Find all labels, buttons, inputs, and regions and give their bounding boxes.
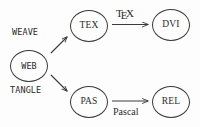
edge-label-weave: WEAVE xyxy=(12,28,38,37)
node-tex: TEX xyxy=(70,10,108,42)
node-web: WEB xyxy=(10,50,48,82)
node-pas-label: PAS xyxy=(80,97,97,107)
node-dvi: DVI xyxy=(152,9,190,41)
arrow-tangle xyxy=(51,75,67,91)
node-tex-label: TEX xyxy=(79,21,98,31)
arrow-weave xyxy=(51,37,67,53)
node-web-label: WEB xyxy=(21,62,36,71)
node-rel: REL xyxy=(152,86,190,118)
node-pas: PAS xyxy=(70,86,108,118)
edge-label-tangle: TANGLE xyxy=(10,86,41,95)
diagram-canvas: WEB TEX DVI PAS REL WEAVE TANGLE TEX Pas… xyxy=(0,0,200,127)
tex-logo: TEX xyxy=(116,8,134,19)
edge-label-tex-logo: TEX xyxy=(116,4,134,20)
tex-logo-e: E xyxy=(121,10,128,21)
node-rel-label: REL xyxy=(162,97,181,107)
edge-label-pascal: Pascal xyxy=(113,107,139,117)
node-dvi-label: DVI xyxy=(162,20,180,30)
